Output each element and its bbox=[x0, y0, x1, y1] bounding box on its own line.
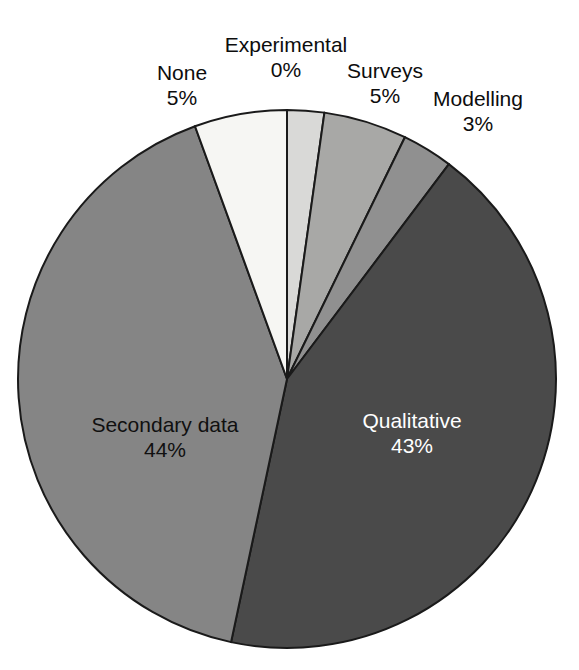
pie-label-modelling: Modelling 3% bbox=[408, 86, 548, 136]
pie-label-none: None 5% bbox=[127, 60, 237, 110]
pie-label-modelling-percent: 3% bbox=[408, 111, 548, 136]
pie-label-qualitative-name: Qualitative bbox=[322, 408, 502, 433]
pie-slice-group bbox=[18, 110, 556, 648]
pie-label-experimental-name: Experimental bbox=[196, 32, 376, 57]
pie-label-none-percent: 5% bbox=[127, 85, 237, 110]
pie-chart: Experimental 0% None 5% Surveys 5% Model… bbox=[0, 0, 579, 670]
pie-label-modelling-name: Modelling bbox=[408, 86, 548, 111]
pie-label-secondary-data-percent: 44% bbox=[55, 437, 275, 462]
pie-label-secondary-data: Secondary data 44% bbox=[55, 412, 275, 462]
pie-label-secondary-data-name: Secondary data bbox=[55, 412, 275, 437]
pie-label-none-name: None bbox=[127, 60, 237, 85]
pie-label-qualitative-percent: 43% bbox=[322, 433, 502, 458]
pie-label-qualitative: Qualitative 43% bbox=[322, 408, 502, 458]
pie-label-surveys-name: Surveys bbox=[330, 58, 440, 83]
